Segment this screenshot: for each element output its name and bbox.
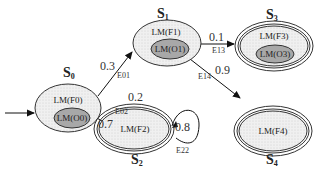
- edge-s2-self-label: E22: [176, 146, 189, 155]
- state-s3-outer-label: LM(F3): [260, 31, 289, 41]
- state-s1-name: S1: [157, 6, 169, 22]
- state-s1-inner-label: LM(O1): [155, 44, 186, 54]
- state-s2-name: S2: [131, 152, 143, 168]
- state-s0[interactable]: [35, 84, 101, 132]
- edge-s0-s2-prob: 0.7: [98, 117, 113, 131]
- edge-s0-s1-prob: 0.3: [100, 59, 115, 73]
- edge-s1-s4-label: E14: [198, 72, 211, 81]
- edge-s0-s2-label: E02: [115, 107, 128, 116]
- state-diagram: S0 S1 S3 S2 S4 LM(F0) LM(O0) LM(F1) LM(O…: [0, 0, 326, 172]
- state-s0-outer-label: LM(F0): [54, 95, 83, 105]
- extra-prob-label-s2: 0.2: [128, 90, 143, 104]
- state-s3[interactable]: [235, 21, 313, 71]
- edge-s0-s1-label: E01: [117, 71, 130, 80]
- state-s4-outer-label: LM(F4): [259, 126, 288, 136]
- state-s0-inner-label: LM(O0): [57, 113, 88, 123]
- edge-s2-self-prob: 0.8: [175, 120, 190, 134]
- state-s0-name: S0: [63, 65, 75, 81]
- state-s3-inner-label: LM(O3): [260, 49, 291, 59]
- state-s3-name: S3: [266, 7, 278, 23]
- state-s2-outer-label: LM(F2): [121, 124, 150, 134]
- edge-s1-s3-prob: 0.1: [209, 30, 224, 44]
- edge-s1-s4-prob: 0.9: [215, 63, 230, 77]
- state-s1-outer-label: LM(F1): [152, 27, 181, 37]
- state-s4-name: S4: [266, 152, 278, 168]
- edge-s1-s3-label: E13: [212, 46, 225, 55]
